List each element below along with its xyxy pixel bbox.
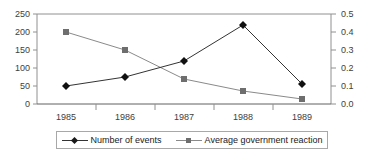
- series-average-government-reaction: [63, 29, 305, 102]
- left-axis-tick-200: 200: [0, 28, 30, 37]
- legend-label: Number of events: [91, 135, 162, 145]
- left-axis-tick-100: 100: [0, 64, 30, 73]
- data-point-marker: [62, 82, 70, 90]
- left-axis-tick-250: 250: [0, 10, 30, 19]
- data-point-marker: [240, 88, 246, 94]
- right-axis-tick-0-3: 0.3: [341, 46, 371, 55]
- x-axis-label-1987: 1987: [154, 113, 214, 122]
- data-point-marker: [121, 73, 129, 81]
- data-point-marker: [63, 29, 69, 35]
- x-axis-ticks: [96, 104, 273, 110]
- left-axis-ticks: [33, 14, 37, 104]
- legend-label: Average government reaction: [205, 135, 323, 145]
- diamond-marker-icon: [62, 136, 88, 145]
- right-axis-tick-0-4: 0.4: [341, 28, 371, 37]
- data-point-marker: [180, 57, 188, 65]
- x-axis-label-1986: 1986: [95, 113, 155, 122]
- right-axis-tick-0-2: 0.2: [341, 64, 371, 73]
- left-axis-tick-0: 0: [0, 100, 30, 109]
- left-axis-tick-50: 50: [0, 82, 30, 91]
- right-axis-tick-0-5: 0.5: [341, 10, 371, 19]
- data-point-marker: [181, 76, 187, 82]
- legend-item-average-government-reaction[interactable]: Average government reaction: [176, 135, 323, 145]
- data-point-marker: [299, 96, 305, 102]
- square-marker-icon: [176, 136, 202, 145]
- x-axis-label-1985: 1985: [36, 113, 96, 122]
- right-axis-ticks: [331, 14, 336, 104]
- line-chart: 250 200 150 100 50 0 0.5 0.4 0.3 0.2 0.1…: [0, 0, 386, 159]
- right-axis-tick-0-0: 0.0: [341, 100, 371, 109]
- legend-item-number-of-events[interactable]: Number of events: [62, 135, 162, 145]
- data-point-marker: [122, 47, 128, 53]
- x-axis-label-1988: 1988: [213, 113, 273, 122]
- right-axis-tick-0-1: 0.1: [341, 82, 371, 91]
- chart-legend: Number of events Average government reac…: [56, 131, 328, 149]
- left-axis-tick-150: 150: [0, 46, 30, 55]
- x-axis-label-1989: 1989: [272, 113, 332, 122]
